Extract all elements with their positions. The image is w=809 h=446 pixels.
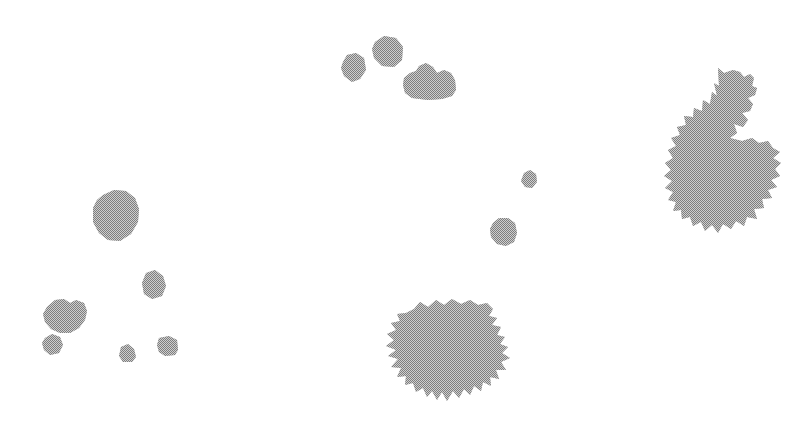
blob-distribution-svg [0,0,809,446]
figure-canvas [0,0,809,446]
